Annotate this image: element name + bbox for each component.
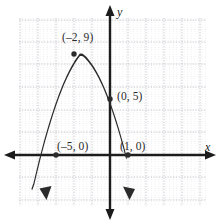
- graph-figure: (–2, 9) (0, 5) (–5, 0) (1, 0) y x: [0, 0, 220, 222]
- x-axis-label: x: [205, 140, 210, 155]
- point-vertex: [71, 51, 76, 56]
- coordinate-plane: [0, 0, 220, 222]
- vertex-label: (–2, 9): [62, 31, 93, 43]
- x-intercept-left-label: (–5, 0): [57, 140, 88, 152]
- point-y-intercept: [107, 96, 112, 101]
- y-axis-label: y: [117, 5, 122, 20]
- point-x-intercept-left: [53, 152, 58, 157]
- point-x-intercept-right: [125, 152, 130, 157]
- y-intercept-label: (0, 5): [117, 90, 143, 102]
- x-intercept-right-label: (1, 0): [120, 140, 146, 152]
